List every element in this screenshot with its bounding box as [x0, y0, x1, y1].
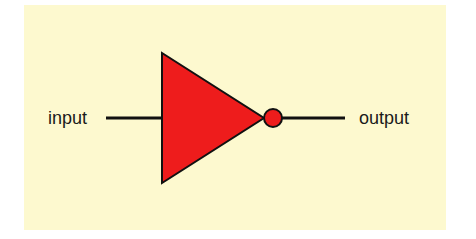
gate-triangle — [162, 53, 264, 183]
input-label: input — [48, 108, 87, 128]
inversion-bubble — [264, 109, 282, 127]
not-gate-diagram: input output — [0, 0, 476, 239]
output-label: output — [359, 108, 409, 128]
